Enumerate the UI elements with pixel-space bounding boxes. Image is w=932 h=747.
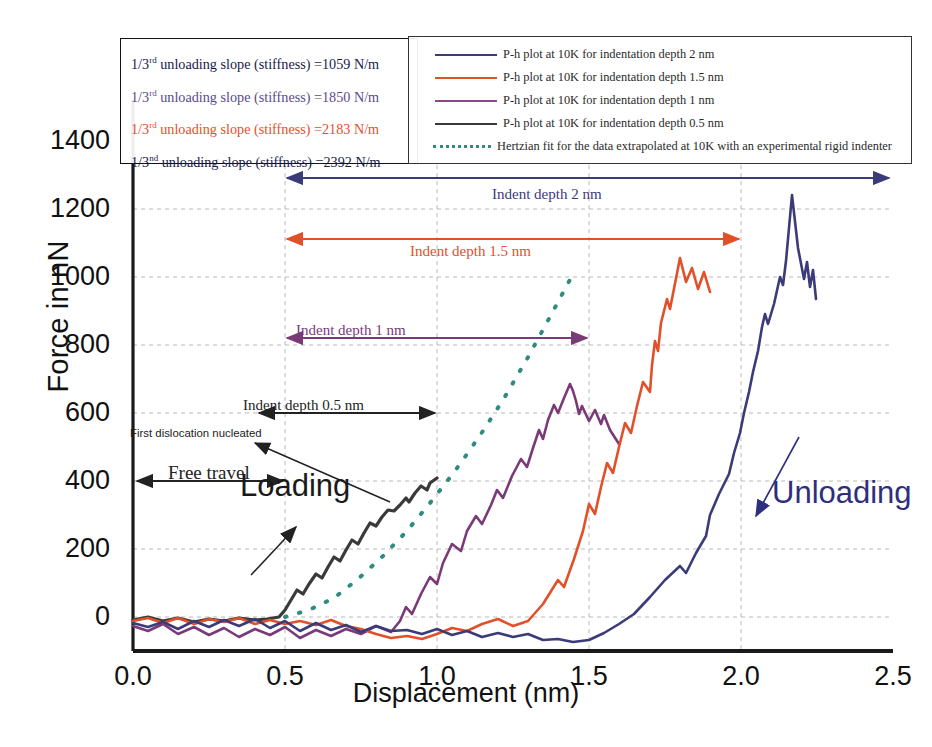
y-tick-1200: 1200: [0, 193, 110, 224]
legend-item-depth-15: P-h plot at 10K for indentation depth 1.…: [417, 66, 903, 89]
grid-lines: [133, 141, 893, 651]
x-tick-20: 2.0: [691, 661, 791, 692]
stiffness-prefix-3: 1/3: [131, 121, 149, 137]
y-tick-200: 200: [0, 533, 110, 564]
stiffness-row-1: 1/3rd unloading slope (stiffness) =1059 …: [131, 46, 407, 79]
legend-swatch-hertzian: [433, 145, 491, 148]
legend-label-depth-2: P-h plot at 10K for indentation depth 2 …: [503, 47, 714, 62]
arrow-loading: [251, 527, 296, 575]
legend-label-depth-15: P-h plot at 10K for indentation depth 1.…: [503, 70, 724, 85]
legend-swatch-depth-15: [435, 77, 497, 79]
legend-swatch-depth-2: [435, 54, 497, 56]
annotation-indent-depth-05: Indent depth 0.5 nm: [243, 397, 364, 414]
y-tick-600: 600: [0, 397, 110, 428]
stiffness-prefix-4: 1/3: [131, 154, 149, 170]
legend-item-depth-1: P-h plot at 10K for indentation depth 1 …: [417, 89, 903, 112]
axis-lines: [133, 100, 893, 651]
stiffness-text-4: unloading slope (stiffness) =2392 N/m: [158, 154, 381, 170]
series-depth-2: [133, 195, 816, 642]
legend-item-hertzian: Hertzian fit for the data extrapolated a…: [417, 135, 903, 158]
legend-item-depth-05: P-h plot at 10K for indentation depth 0.…: [417, 112, 903, 135]
stiffness-row-4: 1/3nd unloading slope (stiffness) =2392 …: [131, 144, 407, 177]
annotation-indent-depth-2: Indent depth 2 nm: [492, 186, 602, 203]
x-tick-15: 1.5: [539, 661, 639, 692]
legend-swatch-depth-1: [435, 100, 497, 102]
y-tick-800: 800: [0, 329, 110, 360]
annotation-indent-depth-1: Indent depth 1 nm: [296, 322, 406, 339]
stiffness-prefix-2: 1/3: [131, 88, 149, 104]
legend-label-hertzian: Hertzian fit for the data extrapolated a…: [497, 139, 892, 154]
annotation-indent-depth-15: Indent depth 1.5 nm: [410, 243, 531, 260]
stiffness-row-2: 1/3rd unloading slope (stiffness) =1850 …: [131, 79, 407, 112]
figure-panel: Force in nN Displacement (nm) 1400 1200 …: [0, 0, 932, 747]
x-tick-25: 2.5: [843, 661, 932, 692]
stiffness-sup-3: rd: [149, 120, 157, 130]
x-tick-00: 0.0: [83, 661, 183, 692]
annotation-arrows: [137, 178, 889, 575]
x-tick-10: 1.0: [387, 661, 487, 692]
stiffness-sup-4: nd: [149, 153, 158, 163]
y-tick-0: 0: [0, 601, 110, 632]
annotation-unloading: Unloading: [772, 475, 912, 511]
stiffness-text-1: unloading slope (stiffness) =1059 N/m: [157, 56, 380, 72]
chart-legend: P-h plot at 10K for indentation depth 2 …: [408, 36, 912, 164]
annotation-free-travel: Free travel: [168, 462, 250, 484]
annotation-loading: Loading: [240, 468, 350, 504]
y-tick-1000: 1000: [0, 261, 110, 292]
x-tick-05: 0.5: [235, 661, 335, 692]
stiffness-prefix-1: 1/3: [131, 56, 149, 72]
y-tick-1400: 1400: [0, 125, 110, 156]
stiffness-sup-2: rd: [149, 88, 157, 98]
legend-swatch-depth-05: [435, 123, 497, 125]
stiffness-text-3: unloading slope (stiffness) =2183 N/m: [157, 121, 380, 137]
legend-label-depth-05: P-h plot at 10K for indentation depth 0.…: [503, 116, 724, 131]
stiffness-row-3: 1/3rd unloading slope (stiffness) =2183 …: [131, 111, 407, 144]
legend-item-depth-2: P-h plot at 10K for indentation depth 2 …: [417, 43, 903, 66]
legend-label-depth-1: P-h plot at 10K for indentation depth 1 …: [503, 93, 714, 108]
series-depth-15: [133, 258, 710, 639]
y-tick-400: 400: [0, 465, 110, 496]
annotation-first-dislocation: First dislocation nucleated: [130, 427, 262, 439]
stiffness-text-2: unloading slope (stiffness) =1850 N/m: [157, 88, 380, 104]
stiffness-annotation-box: 1/3rd unloading slope (stiffness) =1059 …: [120, 38, 418, 164]
stiffness-sup-1: rd: [149, 55, 157, 65]
